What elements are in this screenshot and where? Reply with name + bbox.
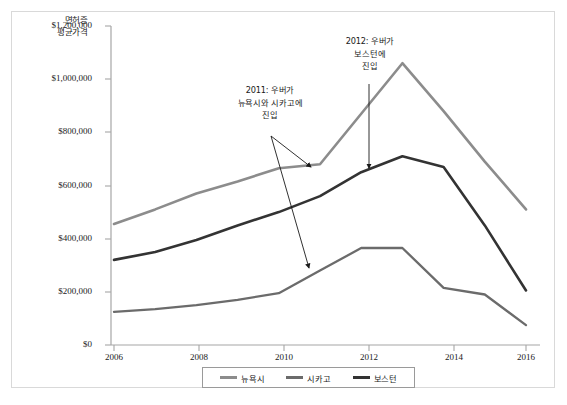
series-line-new-york bbox=[114, 63, 526, 224]
series-line-chicago bbox=[114, 248, 526, 325]
chart-page: 면허증 평균가격 $1,200,000 $1,000,000 $800,000 … bbox=[0, 0, 567, 405]
annotation-2011-arrow-newyork bbox=[271, 136, 311, 167]
legend-swatch-chicago bbox=[286, 376, 303, 379]
y-axis-ticks bbox=[105, 26, 111, 345]
legend-item-new-york[interactable]: 뉴욕시 bbox=[220, 372, 264, 384]
legend-label-chicago: 시카고 bbox=[307, 372, 330, 384]
legend-label-boston: 보스턴 bbox=[374, 372, 397, 384]
legend-item-boston[interactable]: 보스턴 bbox=[353, 372, 397, 384]
x-axis-ticks bbox=[114, 345, 526, 351]
legend-swatch-new-york bbox=[220, 376, 237, 379]
chart-plot-area bbox=[0, 0, 567, 405]
legend-label-new-york: 뉴욕시 bbox=[241, 372, 264, 384]
chart-legend: 뉴욕시 시카고 보스턴 bbox=[202, 367, 415, 388]
legend-item-chicago[interactable]: 시카고 bbox=[286, 372, 330, 384]
legend-swatch-boston bbox=[353, 376, 370, 379]
